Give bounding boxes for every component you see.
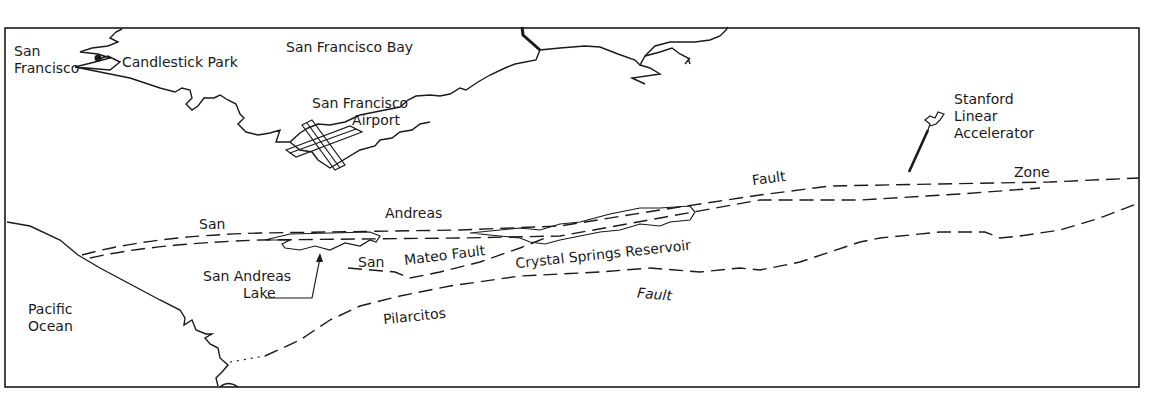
san-andreas-lake: [265, 232, 380, 250]
label-san-francisco-airport: San Francisco Airport: [312, 95, 408, 129]
label-candlestick-park: Candlestick Park: [122, 54, 238, 71]
label-san-francisco: San Francisco: [14, 43, 79, 77]
bay-inlet-2: [632, 48, 690, 84]
label-san-andreas-1: San: [199, 216, 225, 233]
crystal-springs-reservoir: [470, 206, 695, 244]
label-san-francisco-bay: San Francisco Bay: [286, 39, 413, 56]
stanford-linear-accelerator: [909, 130, 928, 172]
map-frame: [5, 28, 1139, 387]
label-san-mateo-1: San: [358, 254, 384, 271]
bay-inlet-1: [522, 27, 540, 50]
san-andreas-fault-north: [82, 178, 1139, 255]
label-pacific-ocean: Pacific Ocean: [28, 301, 73, 335]
label-stanford-linear-accelerator: Stanford Linear Accelerator: [954, 91, 1034, 142]
label-zone: Zone: [1014, 164, 1050, 181]
pilarcitos-fault-dotted: [230, 356, 265, 362]
label-san-andreas-lake: San Andreas Lake: [203, 268, 291, 302]
label-andreas: Andreas: [385, 205, 442, 222]
stanford-campus: [925, 112, 944, 130]
pointer-arrowhead: [316, 253, 323, 262]
candlestick-park-marker: [95, 55, 102, 62]
pilarcitos-fault: [265, 203, 1139, 356]
label-fault-lower: Fault: [636, 285, 672, 305]
